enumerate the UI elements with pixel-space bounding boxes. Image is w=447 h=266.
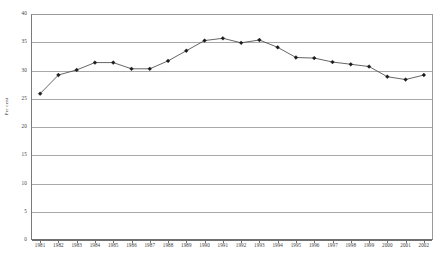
x-tick-mark-2001 — [406, 240, 407, 243]
x-tick-mark-1996 — [314, 240, 315, 243]
x-tick-label-2000: 2000 — [382, 243, 393, 248]
x-tick-label-1995: 1995 — [291, 243, 302, 248]
x-tick-label-1984: 1984 — [90, 243, 101, 248]
data-point-1994 — [276, 45, 280, 49]
y-tick-label-10: 10 — [22, 181, 27, 186]
x-tick-label-1991: 1991 — [218, 243, 229, 248]
y-tick-label-15: 15 — [22, 153, 27, 158]
y-tick-label-35: 35 — [22, 40, 27, 45]
y-tick-label-20: 20 — [22, 124, 27, 129]
y-tick-label-0: 0 — [24, 237, 27, 242]
x-tick-label-1986: 1986 — [126, 243, 137, 248]
y-axis-tick-labels: 0510152025303540 — [0, 14, 27, 240]
y-tick-label-25: 25 — [22, 96, 27, 101]
data-point-1986 — [130, 67, 134, 71]
x-tick-label-1989: 1989 — [181, 243, 192, 248]
x-tick-label-1999: 1999 — [364, 243, 375, 248]
x-axis-tick-labels: 1981198219831984198519861987198819891990… — [31, 243, 433, 259]
data-point-1995 — [294, 56, 298, 60]
x-tick-label-1993: 1993 — [254, 243, 265, 248]
x-tick-label-1994: 1994 — [272, 243, 283, 248]
data-point-1998 — [349, 62, 353, 66]
x-tick-mark-1999 — [369, 240, 370, 243]
series-line-chart — [31, 14, 433, 240]
x-tick-mark-1984 — [95, 240, 96, 243]
x-tick-label-1982: 1982 — [53, 243, 64, 248]
series-markers — [38, 36, 426, 95]
data-point-1989 — [184, 49, 188, 53]
y-tick-label-30: 30 — [22, 68, 27, 73]
x-tick-label-1997: 1997 — [327, 243, 338, 248]
data-point-1990 — [203, 39, 207, 43]
x-tick-label-1998: 1998 — [345, 243, 356, 248]
data-point-2000 — [385, 75, 389, 79]
data-point-1984 — [93, 61, 97, 65]
data-point-2001 — [404, 78, 408, 82]
x-tick-mark-1986 — [132, 240, 133, 243]
x-tick-mark-1993 — [259, 240, 260, 243]
data-point-1991 — [221, 36, 225, 40]
gridline-y-0 — [32, 240, 432, 241]
x-tick-mark-1992 — [241, 240, 242, 243]
x-tick-mark-1988 — [168, 240, 169, 243]
x-tick-mark-1982 — [58, 240, 59, 243]
x-tick-mark-1985 — [113, 240, 114, 243]
data-point-1992 — [239, 41, 243, 45]
data-point-1997 — [331, 60, 335, 64]
data-point-1987 — [148, 67, 152, 71]
x-tick-mark-1994 — [278, 240, 279, 243]
x-tick-mark-1989 — [186, 240, 187, 243]
data-point-1996 — [312, 56, 316, 60]
x-tick-label-1985: 1985 — [108, 243, 119, 248]
chart-figure: Per cent 0510152025303540 19811982198319… — [0, 0, 447, 266]
data-point-1983 — [75, 68, 79, 72]
x-tick-label-1996: 1996 — [309, 243, 320, 248]
x-tick-mark-1995 — [296, 240, 297, 243]
data-point-1999 — [367, 65, 371, 69]
x-tick-label-2002: 2002 — [419, 243, 430, 248]
x-tick-mark-1998 — [351, 240, 352, 243]
x-tick-label-1992: 1992 — [236, 243, 247, 248]
x-tick-mark-2000 — [387, 240, 388, 243]
x-tick-mark-1981 — [40, 240, 41, 243]
data-point-1988 — [166, 59, 170, 63]
x-tick-label-2001: 2001 — [400, 243, 411, 248]
y-tick-label-5: 5 — [24, 209, 27, 214]
x-tick-label-1990: 1990 — [199, 243, 210, 248]
x-tick-label-1987: 1987 — [144, 243, 155, 248]
data-point-1993 — [258, 38, 262, 42]
x-tick-mark-1987 — [150, 240, 151, 243]
x-tick-mark-1997 — [333, 240, 334, 243]
x-tick-mark-1991 — [223, 240, 224, 243]
x-tick-label-1981: 1981 — [35, 243, 46, 248]
y-tick-label-40: 40 — [22, 11, 27, 16]
x-tick-mark-1990 — [205, 240, 206, 243]
data-point-2002 — [422, 73, 426, 77]
series-polyline — [40, 38, 424, 93]
data-point-1985 — [111, 61, 115, 65]
x-tick-label-1988: 1988 — [163, 243, 174, 248]
x-tick-label-1983: 1983 — [71, 243, 82, 248]
x-tick-mark-2002 — [424, 240, 425, 243]
x-tick-mark-1983 — [77, 240, 78, 243]
